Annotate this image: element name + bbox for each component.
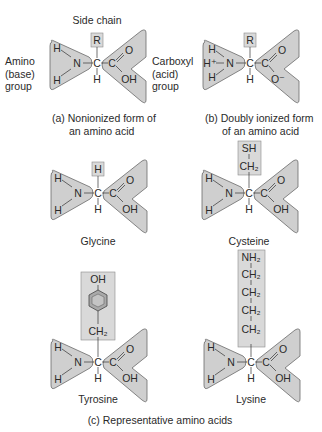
carbonyl-oxygen: O <box>278 44 286 56</box>
svg-text:O: O <box>126 174 134 186</box>
carboxyl-group-label: Carboxyl (acid) group <box>152 55 193 93</box>
side-chain-ch2: CH₂ <box>88 325 107 337</box>
amine-nitrogen: N <box>226 57 234 69</box>
amine-hydrogen-bottom: H <box>53 74 61 86</box>
side-chain-nh2: NH₂ <box>241 251 260 263</box>
svg-text:O: O <box>277 174 285 186</box>
svg-text:C: C <box>94 187 102 199</box>
svg-text:H: H <box>245 203 253 215</box>
svg-text:O: O <box>126 343 134 355</box>
alpha-carbon: C <box>246 57 254 69</box>
amine-hydrogen-bottom: H <box>208 71 216 83</box>
side-chain-sh: SH <box>242 142 257 154</box>
carbonyl-oxygen: O <box>125 44 133 56</box>
svg-text:H: H <box>247 372 255 384</box>
caption-b: (b) Doubly ionized form of an amino acid <box>205 112 314 137</box>
side-chain-ch2: CH₂ <box>239 160 258 172</box>
glycine-structure: H C H N H H C O OH <box>51 160 147 233</box>
amine-hydrogen-plus: H⁺ <box>203 57 217 69</box>
carboxylate-oxygen: O⁻ <box>271 73 285 85</box>
amine-nitrogen: N <box>73 57 81 69</box>
lysine-structure: NH₂ CH₂ CH₂ CH₂ CH₂ C H N H H C O OH <box>204 250 300 402</box>
side-chain-ch2-3: CH₂ <box>241 304 260 316</box>
svg-text:C: C <box>260 187 268 199</box>
tyrosine-structure: OH CH₂ C H N H H C O OH <box>51 272 147 402</box>
svg-text:H: H <box>207 373 215 385</box>
alpha-hydrogen: H <box>93 73 101 85</box>
svg-text:N: N <box>225 187 233 199</box>
svg-text:N: N <box>74 187 82 199</box>
svg-text:OH: OH <box>273 203 289 215</box>
section-caption-c: (c) Representative amino acids <box>60 414 260 427</box>
carboxyl-carbon: C <box>261 57 269 69</box>
side-chain-ch2-1: CH₂ <box>241 268 260 280</box>
svg-text:C: C <box>109 187 117 199</box>
svg-text:H: H <box>94 372 102 384</box>
svg-text:C: C <box>262 356 270 368</box>
carboxyl-carbon: C <box>108 57 116 69</box>
svg-text:O: O <box>279 343 287 355</box>
tyrosine-label: Tyrosine <box>68 393 128 406</box>
svg-text:H: H <box>54 172 62 184</box>
svg-text:OH: OH <box>275 372 291 384</box>
side-chain-oh: OH <box>90 273 106 285</box>
alpha-carbon: C <box>93 57 101 69</box>
svg-text:H: H <box>54 341 62 353</box>
amine-hydrogen-top: H <box>208 43 216 55</box>
side-chain-ch2-4: CH₂ <box>241 323 260 335</box>
cysteine-label: Cysteine <box>219 235 279 248</box>
amino-group-label: Amino (base) group <box>5 55 35 93</box>
svg-text:N: N <box>74 356 82 368</box>
svg-text:OH: OH <box>122 372 138 384</box>
svg-text:H: H <box>207 341 215 353</box>
glycine-label: Glycine <box>68 235 128 248</box>
svg-text:OH: OH <box>122 203 138 215</box>
side-chain-r: R <box>93 34 101 46</box>
side-chain-ch2-2: CH₂ <box>241 286 260 298</box>
panel-b-ionized: R C H N H H⁺ H C O O⁻ <box>203 30 299 103</box>
svg-text:H: H <box>205 172 213 184</box>
cysteine-structure: SH CH₂ C H N H H C O OH <box>202 141 298 233</box>
svg-text:H: H <box>54 373 62 385</box>
side-chain-label: Side chain <box>64 14 130 27</box>
amine-hydrogen-top: H <box>53 42 61 54</box>
caption-a: (a) Nonionized form of an amino acid <box>52 112 156 137</box>
hydroxyl: OH <box>121 73 137 85</box>
svg-text:C: C <box>245 187 253 199</box>
svg-text:N: N <box>227 356 235 368</box>
svg-text:C: C <box>109 356 117 368</box>
lysine-label: Lysine <box>221 393 281 406</box>
panel-a-nonionized: R C H N H H C O OH <box>50 30 146 103</box>
svg-text:C: C <box>247 356 255 368</box>
alpha-hydrogen: H <box>246 73 254 85</box>
svg-text:H: H <box>205 204 213 216</box>
side-chain-r: R <box>246 34 254 46</box>
svg-text:C: C <box>94 356 102 368</box>
svg-text:H: H <box>54 204 62 216</box>
svg-text:H: H <box>94 203 102 215</box>
side-chain-h: H <box>94 163 102 175</box>
